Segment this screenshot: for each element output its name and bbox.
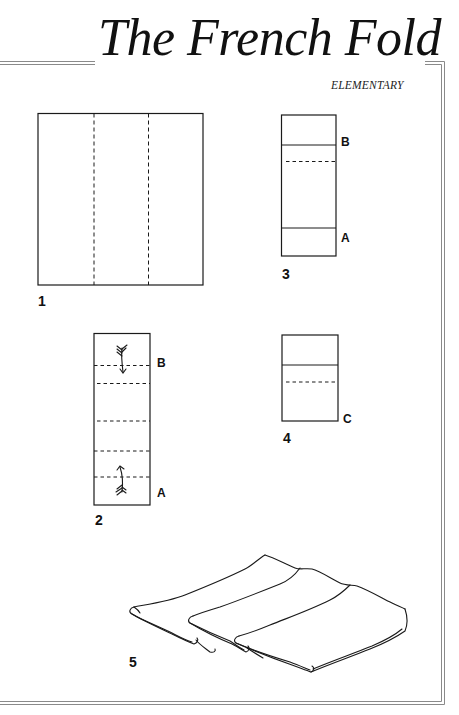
french-fold-instruction-page: The French Fold ELEMENTARY 1 2 3 4 5 B A…: [0, 0, 459, 715]
step-number-1: 1: [38, 293, 46, 309]
diagram-step-3: [282, 115, 337, 256]
step-number-3: 3: [282, 266, 290, 282]
step-number-2: 2: [95, 512, 103, 528]
diagram-step-1: [38, 114, 203, 286]
page-border: [0, 62, 445, 705]
diagram-step-4: [282, 335, 338, 421]
point-label-a-step-3: A: [341, 231, 350, 245]
point-label-c-step-4: C: [343, 412, 352, 426]
step-number-4: 4: [283, 430, 291, 446]
difficulty-level: ELEMENTARY: [331, 78, 404, 92]
point-label-b-step-3: B: [341, 135, 350, 149]
point-label-b-step-2: B: [157, 356, 166, 370]
point-label-a-step-2: A: [157, 486, 166, 500]
diagram-step-5-finished-napkin: [130, 555, 407, 672]
diagram-artwork: [0, 0, 459, 715]
fold-up-arrow-icon: [116, 466, 126, 495]
fold-down-arrow-icon: [117, 345, 127, 373]
page-title: The French Fold: [98, 8, 441, 68]
step-number-5: 5: [129, 654, 137, 670]
